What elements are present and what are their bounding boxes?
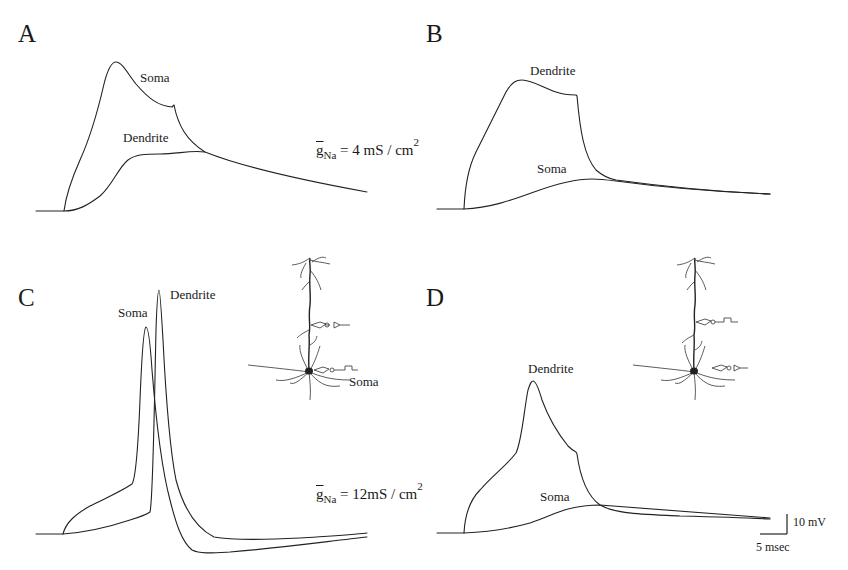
gbar-symbol: g [316,142,324,158]
panel-a-soma-label: Soma [140,70,170,86]
panel-b-soma-trace [464,179,770,209]
neuron-inset-d [633,257,748,400]
formula-text: = 12mS / cm [336,486,417,502]
gbar-symbol: g [316,486,324,502]
dendrite-electrode-icon [311,322,350,328]
formula-superscript: 2 [414,136,420,148]
panel-a-letter: A [18,20,36,48]
panel-c-traces [36,290,367,553]
panel-d-letter: D [426,284,444,312]
formula-subscript: Na [324,149,337,161]
panel-c-soma-trace [36,327,367,553]
panel-d-traces [437,381,770,533]
panel-b-traces [437,80,770,209]
formula-subscript: Na [324,493,337,505]
panel-d-soma-trace [464,505,770,533]
panel-b-letter: B [426,20,443,48]
neuron-inset-c [248,257,358,400]
formula-superscript: 2 [417,480,423,492]
conductance-formula-4: gNa = 4 mS / cm2 [316,136,419,161]
conductance-formula-12: gNa = 12mS / cm2 [316,480,423,505]
panel-c-dendrite-label: Dendrite [170,287,215,303]
panel-c-soma-label: Soma [118,305,148,321]
soma-recording-electrode-icon [712,365,748,371]
figure-canvas [0,0,848,570]
soma-electrode-icon [314,366,358,373]
panel-d-soma-label: Soma [540,489,570,505]
panel-b-dendrite-label: Dendrite [530,63,575,79]
panel-c-inset-soma-label: Soma [349,374,379,390]
panel-a-dendrite-trace [64,151,205,211]
panel-d-dendrite-label: Dendrite [528,361,573,377]
panel-c-letter: C [18,284,35,312]
scale-bar-time-label: 5 msec [756,540,790,555]
formula-text: = 4 mS / cm [336,142,413,158]
panel-b-dendrite-trace [437,80,770,209]
dendrite-stimulus-electrode-icon [696,318,738,325]
panel-b-soma-label: Soma [537,161,567,177]
panel-a-dendrite-label: Dendrite [123,130,168,146]
panel-d-dendrite-trace [437,381,770,533]
scale-bar-voltage-label: 10 mV [793,515,826,530]
